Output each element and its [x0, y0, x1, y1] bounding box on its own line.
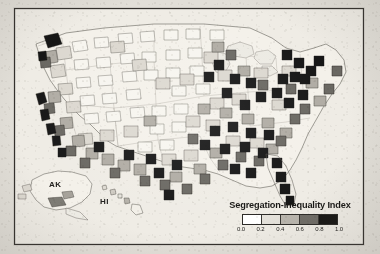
legend-tick: 1.0 — [332, 226, 346, 232]
legend-swatch-4 — [319, 215, 337, 224]
legend-tick: 0.0 — [234, 226, 248, 232]
map-legend: Segregation-Inequality Index 0.0 0.2 0.4… — [216, 200, 364, 232]
legend-swatch-3 — [300, 215, 319, 224]
legend-tick: 0.6 — [293, 226, 307, 232]
legend-swatch-2 — [281, 215, 300, 224]
hawaii-inset-label: HI — [100, 197, 109, 206]
legend-swatch-0 — [243, 215, 262, 224]
legend-title: Segregation-Inequality Index — [216, 200, 364, 211]
legend-tick: 0.4 — [273, 226, 287, 232]
legend-swatch-1 — [262, 215, 281, 224]
legend-tick-labels: 0.0 0.2 0.4 0.6 0.8 1.0 — [234, 226, 346, 232]
alaska-inset-label: AK — [49, 180, 61, 189]
figure-canvas: AK HI Segregation-Inequality Index 0.0 0… — [0, 0, 380, 254]
legend-tick: 0.8 — [312, 226, 326, 232]
legend-color-ramp — [242, 214, 338, 225]
legend-tick: 0.2 — [254, 226, 268, 232]
alaska-inset-shape — [18, 171, 92, 220]
